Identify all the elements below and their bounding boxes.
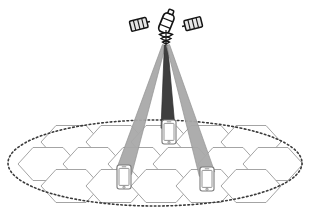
smartphone-icon	[162, 120, 176, 144]
smartphone-icon	[200, 167, 214, 191]
satellite-coverage-diagram	[0, 0, 326, 217]
diagram-canvas	[0, 0, 326, 217]
smartphone-icon	[117, 165, 131, 189]
hexagonal-cell-grid	[18, 126, 303, 203]
